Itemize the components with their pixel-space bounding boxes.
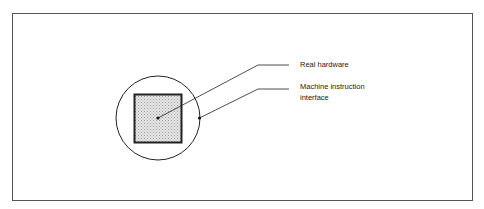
real-hardware-label: Real hardware [300,59,349,70]
machine-instruction-label-line2: interface [300,92,365,103]
interface-leader-line [200,89,290,118]
machine-instruction-label-line1: Machine instruction [300,81,365,92]
machine-instruction-interface-label: Machine instruction interface [300,81,365,103]
diagram-canvas [0,0,484,209]
